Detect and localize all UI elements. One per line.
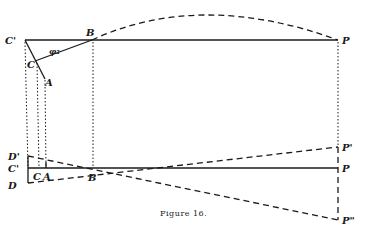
upper-figure: C' B P C A φ₂ [5,15,350,88]
label-d: D [7,180,17,191]
label-p-lower: P [341,163,350,174]
proj-a [45,80,46,168]
label-d-prime: D' [7,151,20,162]
label-c-prime-lower: C' [8,163,19,174]
label-b: B [85,27,94,38]
figure-16-diagram: C' B P C A φ₂ D' C' D C A B P P' P" Figu… [0,0,368,235]
label-c-lower: C [33,171,41,182]
arc-b-p [92,15,338,40]
label-a-lower: A [42,171,51,182]
line-d-p-prime [28,147,338,183]
label-p-double-prime: P" [341,215,355,226]
proj-c [37,63,39,168]
figure-caption: Figure 16. [160,209,207,218]
projection-lines [25,42,338,168]
label-p-prime: P' [341,142,353,153]
label-c: C [27,59,35,70]
label-p: P [341,35,350,46]
line-c-b [35,40,92,61]
label-phi: φ₂ [49,46,60,56]
label-c-prime: C' [5,35,16,46]
label-b-lower: B [87,172,96,183]
label-a: A [44,77,53,88]
